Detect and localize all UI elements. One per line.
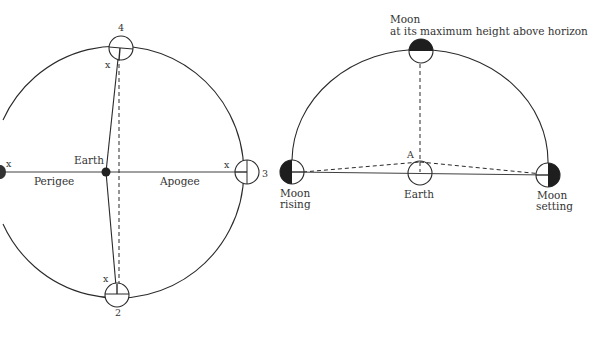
moon-max-height	[409, 39, 433, 63]
label-moon-top: Moon	[390, 13, 420, 25]
label-point-a: A	[406, 149, 414, 160]
horizon-line	[293, 172, 548, 175]
label-max-height: at its maximum height above horizon	[390, 25, 588, 37]
label-moon-setting-2: setting	[536, 200, 573, 212]
label-earth-right: Earth	[404, 188, 434, 200]
label-moon-rising-2: rising	[280, 198, 311, 210]
label-position-4: 4	[118, 22, 124, 33]
marker-x-perigee: x	[6, 158, 12, 169]
label-position-3: 3	[262, 168, 268, 179]
moon-position-4	[109, 36, 133, 60]
earth-to-moon4-line	[106, 59, 118, 172]
label-earth-left: Earth	[74, 154, 104, 166]
label-apogee: Apogee	[159, 175, 200, 187]
diagram-canvas: 4 3 2 x x x x Earth Perigee Apogee	[0, 0, 602, 337]
moon-position-3	[235, 160, 259, 184]
dashed-setting-line	[420, 162, 542, 174]
label-perigee: Perigee	[34, 175, 74, 187]
label-position-2: 2	[115, 307, 121, 318]
marker-x-2: x	[103, 273, 109, 284]
moon-setting	[536, 163, 560, 187]
earth-to-moon2-line	[106, 172, 116, 286]
marker-x-4: x	[105, 59, 111, 70]
moon-position-2	[105, 283, 129, 307]
moon-rising	[280, 160, 304, 184]
dashed-rising-line	[303, 162, 420, 172]
left-diagram: 4 3 2 x x x x Earth Perigee Apogee	[0, 22, 268, 318]
right-diagram: Moon at its maximum height above horizon…	[280, 13, 588, 212]
marker-x-3: x	[224, 159, 230, 170]
earth-dot	[102, 168, 111, 177]
